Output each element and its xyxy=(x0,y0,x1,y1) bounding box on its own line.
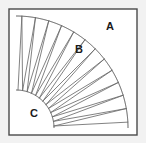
region-label-c: C xyxy=(30,107,38,119)
figure-container: ABC xyxy=(0,0,146,143)
quarter-annulus-diagram: ABC xyxy=(0,0,146,143)
region-label-a: A xyxy=(106,20,114,32)
region-label-b: B xyxy=(75,43,83,55)
diagram-frame xyxy=(9,9,137,135)
